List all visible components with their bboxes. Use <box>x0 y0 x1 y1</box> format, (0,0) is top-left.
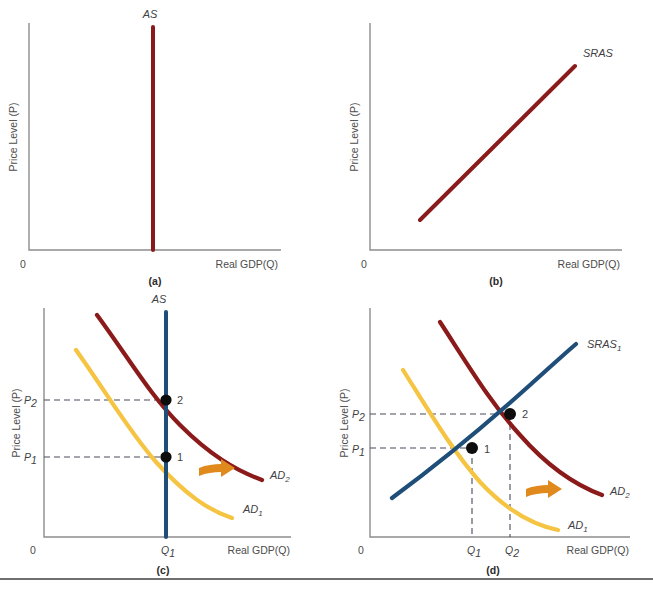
panel-d-shift-arrow <box>526 480 562 498</box>
panel-c-label-ad1: AD1 <box>242 503 263 518</box>
panel-a-y-axis-label: Price Level (P) <box>7 103 19 172</box>
panel-d-tick-p2: P2 <box>352 408 365 423</box>
panel-d-curve-ad2 <box>440 322 602 495</box>
panel-c-tick-q1-sub: 1 <box>169 547 175 559</box>
panel-d-curve-sras1 <box>392 344 576 498</box>
panel-d-label-sras1-base: SRAS <box>587 338 618 350</box>
svg-text:P2: P2 <box>24 394 37 409</box>
panel-d-tick-q2-base: Q <box>505 544 513 556</box>
panel-d-tick-p2-base: P <box>352 408 359 420</box>
panel-c-tick-p2: P2 <box>24 394 37 409</box>
panel-c-point-2-dot <box>160 394 171 405</box>
panel-c-tick-p1-base: P <box>24 451 31 463</box>
panel-d-tick-p1: P1 <box>352 443 365 458</box>
svg-text:AD2: AD2 <box>269 469 290 484</box>
panel-a-x-axis-label: Real GDP(Q) <box>216 258 278 270</box>
panel-c-label-ad2-base: AD <box>269 469 285 481</box>
panel-d: 2 1 SRAS1 AD2 AD1 P2 <box>330 290 653 580</box>
panel-c-tick-p1-sub: 1 <box>31 454 37 466</box>
panel-d-label-sras1-sub: 1 <box>617 344 621 353</box>
panel-d-label-ad2-base: AD <box>609 485 625 497</box>
panel-c-tick-q1-base: Q <box>161 544 169 556</box>
panel-c-label-ad1-base: AD <box>242 503 258 515</box>
panel-d-label-ad2: AD2 <box>609 485 630 500</box>
panel-c-x-axis-label: Real GDP(Q) <box>228 544 290 556</box>
panel-c-caption: (c) <box>157 564 170 576</box>
panel-d-tick-q1-sub: 1 <box>475 547 481 559</box>
panel-d-tick-p2-sub: 2 <box>358 411 365 423</box>
panel-d-label-ad1: AD1 <box>567 519 588 534</box>
panel-c-label-ad2: AD2 <box>269 469 290 484</box>
svg-text:SRAS1: SRAS1 <box>587 338 621 353</box>
panel-b-caption: (b) <box>489 275 502 287</box>
svg-text:AD1: AD1 <box>567 519 588 534</box>
svg-text:Q2: Q2 <box>505 544 519 559</box>
panel-d-tick-q1-base: Q <box>467 544 475 556</box>
panel-b-origin-label: 0 <box>361 258 367 270</box>
panel-c-tick-p1: P1 <box>24 451 37 466</box>
panel-a-label-as: AS <box>142 8 158 20</box>
panel-d-caption: (d) <box>486 564 499 576</box>
panel-d-point-2-dot <box>504 408 516 420</box>
panel-c-point-1-dot <box>160 451 171 462</box>
svg-text:P2: P2 <box>352 408 365 423</box>
panel-c-label-ad1-sub: 1 <box>258 509 262 518</box>
panel-d-label-ad2-sub: 2 <box>624 491 630 500</box>
panel-b-x-axis-label: Real GDP(Q) <box>558 258 620 270</box>
panel-c-point-2-label: 2 <box>177 394 183 406</box>
panel-d-point-1-dot <box>466 442 478 454</box>
panel-d-tick-p1-sub: 1 <box>359 446 365 458</box>
figure-root: AS Price Level (P) Real GDP(Q) 0 (a) SRA… <box>0 0 653 596</box>
panel-d-origin-label: 0 <box>358 544 364 556</box>
panel-c-tick-p2-base: P <box>24 394 31 406</box>
panel-a: AS Price Level (P) Real GDP(Q) 0 (a) <box>0 0 330 290</box>
panel-a-caption: (a) <box>149 275 162 287</box>
panel-c: 2 1 AS AD2 AD1 P2 <box>0 290 330 580</box>
panel-b-label-sras: SRAS <box>583 47 614 59</box>
panel-d-tick-q2: Q2 <box>505 544 519 559</box>
svg-text:Q1: Q1 <box>467 544 481 559</box>
panel-a-origin-label: 0 <box>20 258 26 270</box>
panel-c-curve-ad1 <box>76 350 232 518</box>
panel-c-point-1-label: 1 <box>177 451 183 463</box>
panel-d-x-axis-label: Real GDP(Q) <box>567 544 629 556</box>
panel-c-shift-arrow <box>199 459 235 596</box>
bottom-divider <box>0 578 653 580</box>
panel-d-tick-q2-sub: 2 <box>512 547 519 559</box>
panel-c-origin-label: 0 <box>30 544 36 556</box>
panel-d-tick-q1: Q1 <box>467 544 481 559</box>
svg-text:P1: P1 <box>352 443 365 458</box>
panel-c-y-axis-label: Price Level (P) <box>10 389 22 458</box>
svg-text:AD1: AD1 <box>242 503 263 518</box>
panel-c-tick-q1: Q1 <box>161 544 175 559</box>
panel-d-label-sras1: SRAS1 <box>587 338 621 353</box>
panel-b: SRAS Price Level (P) Real GDP(Q) 0 (b) <box>330 0 653 290</box>
svg-text:Q1: Q1 <box>161 544 175 559</box>
panel-b-curve-sras <box>420 66 575 220</box>
panel-d-point-1-label: 1 <box>484 443 490 455</box>
panel-d-y-axis-label: Price Level (P) <box>338 389 350 458</box>
panel-c-label-as: AS <box>151 293 167 305</box>
panel-d-point-2-label: 2 <box>522 408 528 420</box>
svg-text:P1: P1 <box>24 451 37 466</box>
panel-c-label-ad2-sub: 2 <box>284 475 290 484</box>
svg-text:AD2: AD2 <box>609 485 630 500</box>
panel-d-label-ad1-base: AD <box>567 519 583 531</box>
panel-b-y-axis-label: Price Level (P) <box>348 103 360 172</box>
panel-d-label-ad1-sub: 1 <box>583 525 587 534</box>
panel-d-tick-p1-base: P <box>352 443 359 455</box>
panel-c-tick-p2-sub: 2 <box>30 397 37 409</box>
